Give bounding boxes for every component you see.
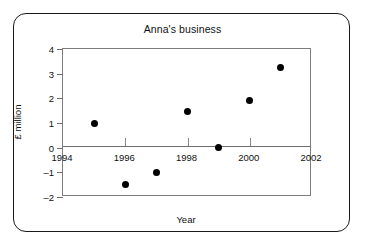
- y-tick-label: –1: [43, 167, 54, 178]
- y-tick-mark: [57, 123, 63, 124]
- data-point: [246, 97, 253, 104]
- y-tick-mark: [57, 98, 63, 99]
- data-point: [184, 108, 191, 115]
- y-tick-label: 1: [49, 118, 54, 129]
- x-tick-label: 2000: [238, 152, 259, 163]
- plot-area: 43210–1–2: [62, 48, 311, 196]
- zero-baseline: [63, 146, 310, 147]
- data-point: [277, 64, 284, 71]
- x-tick-label: 1994: [51, 152, 72, 163]
- y-tick-mark: [57, 74, 63, 75]
- y-tick-mark: [57, 172, 63, 173]
- x-tick-label: 1998: [176, 152, 197, 163]
- chart-figure: Anna's business £ million Year 43210–1–2…: [0, 0, 365, 250]
- y-axis-title: £ million: [12, 105, 23, 140]
- data-point: [153, 169, 160, 176]
- x-tick-label: 2002: [300, 152, 321, 163]
- y-tick-label: 3: [49, 68, 54, 79]
- y-tick-mark: [57, 49, 63, 50]
- data-point: [122, 181, 129, 188]
- y-tick-label: 4: [49, 44, 54, 55]
- x-tick-mark: [188, 138, 189, 146]
- x-tick-mark: [125, 138, 126, 146]
- y-tick-label: –2: [43, 192, 54, 203]
- data-point: [91, 120, 98, 127]
- x-axis-title: Year: [176, 214, 195, 225]
- data-point: [215, 144, 222, 151]
- chart-title: Anna's business: [0, 23, 365, 35]
- y-tick-label: 2: [49, 93, 54, 104]
- y-tick-mark: [57, 197, 63, 198]
- x-tick-mark: [250, 138, 251, 146]
- x-tick-label: 1996: [114, 152, 135, 163]
- y-tick-mark: [57, 148, 63, 149]
